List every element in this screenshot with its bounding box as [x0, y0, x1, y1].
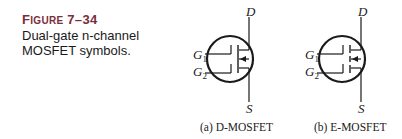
d-mosfet-gate2-label: G2 — [193, 64, 207, 81]
e-mosfet-gate1-label: G1 — [305, 47, 319, 64]
d-mosfet-drain-label: D — [245, 4, 256, 19]
e-mosfet-drain-label: D — [357, 4, 368, 19]
d-mosfet-source-label: S — [246, 101, 253, 116]
e-mosfet-gate2-label: G2 — [305, 64, 319, 81]
d-mosfet-caption: (a) D-MOSFET — [200, 121, 273, 133]
e-mosfet-source-label: S — [358, 101, 365, 116]
d-mosfet-symbol — [205, 17, 253, 102]
e-mosfet-symbol — [317, 17, 365, 102]
mosfet-diagrams: D S G1 G2 D S G1 G2 — [0, 0, 402, 139]
d-mosfet-gate1-label: G1 — [193, 47, 207, 64]
e-mosfet-caption: (b) E-MOSFET — [314, 121, 387, 133]
